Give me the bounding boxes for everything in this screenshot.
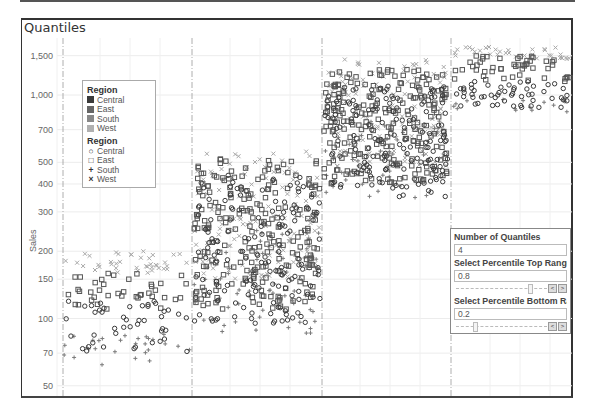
slider-thumb[interactable] <box>473 322 478 332</box>
quantiles-input[interactable]: 4 <box>454 244 567 256</box>
color-swatch-icon <box>87 125 94 132</box>
legend-shape-item-central[interactable]: ○Central <box>87 146 151 156</box>
prev-step-button[interactable]: < <box>548 284 557 293</box>
bottom-range-slider[interactable]: < > <box>454 322 567 331</box>
top-range-slider[interactable]: < > <box>454 284 567 293</box>
top-range-label: Select Percentile Top Range <box>454 258 567 269</box>
svg-text:70: 70 <box>43 348 53 358</box>
parameter-controls: Number of Quantiles 4 Select Percentile … <box>450 228 571 334</box>
legend-shape-item-east[interactable]: □East <box>87 156 151 166</box>
prev-step-button[interactable]: < <box>548 322 557 331</box>
svg-text:1,500: 1,500 <box>30 51 53 61</box>
color-swatch-icon <box>87 96 94 103</box>
slider-track[interactable] <box>456 326 547 327</box>
next-step-button[interactable]: > <box>558 284 567 293</box>
x-marker-icon: × <box>87 174 95 184</box>
bottom-range-input[interactable]: 0.2 <box>454 308 567 320</box>
quantiles-label: Number of Quantiles <box>454 232 567 243</box>
square-marker-icon: □ <box>87 155 95 165</box>
svg-text:200: 200 <box>38 246 53 256</box>
y-axis-label: Sales <box>28 229 38 252</box>
svg-text:100: 100 <box>38 314 53 324</box>
circle-marker-icon: ○ <box>87 146 95 156</box>
svg-text:300: 300 <box>38 207 53 217</box>
slider-track[interactable] <box>456 288 547 289</box>
legend-color-item-west[interactable]: West <box>87 124 151 134</box>
svg-text:50: 50 <box>43 381 53 391</box>
slider-thumb[interactable] <box>528 284 533 294</box>
color-swatch-icon <box>87 106 94 113</box>
bottom-range-label: Select Percentile Bottom Ra.. <box>454 296 567 307</box>
legend-color-item-central[interactable]: Central <box>87 95 151 105</box>
next-step-button[interactable]: > <box>558 322 567 331</box>
region-legend: Region Central East South West Region ○C… <box>82 80 156 188</box>
legend-color-title: Region <box>87 85 151 95</box>
color-swatch-icon <box>87 115 94 122</box>
svg-text:400: 400 <box>38 179 53 189</box>
svg-text:150: 150 <box>38 274 53 284</box>
svg-text:700: 700 <box>38 125 53 135</box>
svg-text:500: 500 <box>38 157 53 167</box>
legend-shape-item-west[interactable]: ×West <box>87 175 151 185</box>
svg-text:1,000: 1,000 <box>30 90 53 100</box>
plus-marker-icon: + <box>87 165 95 175</box>
scatter-plot: 1,5001,0007005004003002001501007050 Sale… <box>0 0 590 417</box>
legend-shape-item-south[interactable]: +South <box>87 165 151 175</box>
top-range-input[interactable]: 0.8 <box>454 270 567 282</box>
y-axis: 1,5001,0007005004003002001501007050 <box>30 51 53 391</box>
legend-shape-title: Region <box>87 136 151 146</box>
legend-color-item-south[interactable]: South <box>87 114 151 124</box>
legend-color-item-east[interactable]: East <box>87 105 151 115</box>
